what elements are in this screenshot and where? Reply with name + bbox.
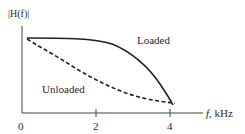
x-tick-label-0: 0 <box>18 121 24 132</box>
y-axis-label: |H(f)| <box>8 9 29 19</box>
x-tick-label-4: 4 <box>167 121 173 132</box>
x-tick-label-2: 2 <box>93 121 99 132</box>
x-axis-label: f, kHz <box>206 108 233 119</box>
unloaded-label: Unloaded <box>42 84 85 95</box>
loaded-label: Loaded <box>137 35 170 46</box>
x-axis-unit: , kHz <box>209 107 233 119</box>
